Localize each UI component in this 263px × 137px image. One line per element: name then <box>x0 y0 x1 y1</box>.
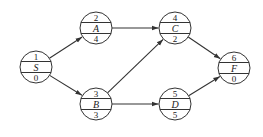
node-label: B <box>93 99 99 110</box>
node-label: C <box>172 23 179 34</box>
node-top-value: 4 <box>173 13 178 23</box>
edges <box>49 28 220 104</box>
edge-s-to-b-arrow-icon <box>50 75 82 95</box>
node-d: 5D5 <box>159 88 191 120</box>
node-top-value: 5 <box>173 89 178 99</box>
node-bottom-value: 2 <box>173 34 178 44</box>
node-top-value: 6 <box>232 53 237 63</box>
node-top-value: 3 <box>94 89 99 99</box>
edge-c-to-f-arrow-icon <box>188 37 220 59</box>
node-a: 2A4 <box>80 12 112 44</box>
node-bottom-value: 5 <box>173 110 178 120</box>
node-top-value: 1 <box>34 52 39 62</box>
edge-b-to-c-arrow-icon <box>108 39 164 92</box>
node-bottom-value: 3 <box>94 110 99 120</box>
node-top-value: 2 <box>94 13 99 23</box>
node-b: 3B3 <box>80 88 112 120</box>
edge-s-to-a-arrow-icon <box>49 37 82 58</box>
node-label: A <box>92 23 100 34</box>
node-label: S <box>34 62 39 73</box>
node-bottom-value: 4 <box>94 34 99 44</box>
node-s: 1S0 <box>20 51 52 83</box>
node-bottom-value: 0 <box>34 73 39 83</box>
node-label: F <box>230 63 238 74</box>
node-bottom-value: 0 <box>232 74 237 84</box>
node-f: 6F0 <box>218 52 250 84</box>
node-c: 4C2 <box>159 12 191 44</box>
edge-d-to-f-arrow-icon <box>189 77 220 96</box>
node-label: D <box>170 99 179 110</box>
network-diagram: 1S02A43B34C25D56F0 <box>0 0 263 137</box>
